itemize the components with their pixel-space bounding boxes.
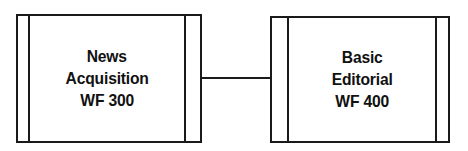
process-node-basic-editorial[interactable]: Basic Editorial WF 400	[270, 16, 450, 143]
process-node-label-line-3: WF 400	[335, 91, 389, 113]
diagram-canvas: News Acquisition WF 300 Basic Editorial …	[0, 0, 468, 151]
process-node-news-acquisition[interactable]: News Acquisition WF 300	[16, 14, 202, 143]
process-node-label-line-2: Acquisition	[65, 68, 148, 90]
process-right-band	[435, 18, 448, 141]
process-right-band	[184, 16, 200, 141]
connector-news-to-editorial	[202, 77, 270, 79]
process-left-band	[272, 18, 289, 141]
process-left-band	[18, 16, 30, 141]
process-node-label-line-1: News	[87, 46, 127, 68]
process-node-label-line-1: Basic	[342, 47, 383, 69]
process-node-label-line-3: WF 300	[80, 90, 134, 112]
process-node-body: News Acquisition WF 300	[30, 16, 184, 141]
process-node-body: Basic Editorial WF 400	[289, 18, 435, 141]
process-node-label-line-2: Editorial	[332, 69, 393, 91]
